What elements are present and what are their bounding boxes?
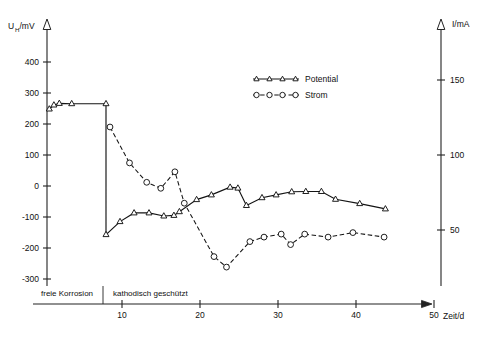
right-tick-labels: 150 100 50: [450, 75, 464, 235]
zone-label-free-corrosion: freie Korrosion: [41, 289, 93, 298]
x-tick-label: 20: [195, 310, 205, 320]
left-tick-label: -300: [22, 274, 39, 284]
right-axis-arrow-icon: [437, 19, 445, 30]
left-axis-title: U H /mV: [8, 21, 35, 33]
legend-label-strom: Strom: [305, 90, 328, 100]
x-tick-label: 30: [273, 310, 283, 320]
legend-strom-marker-icon: [254, 92, 259, 97]
legend-label-potential: Potential: [305, 74, 338, 84]
series-strom: [107, 124, 387, 270]
x-tick-label: 40: [351, 310, 361, 320]
x-tick-label: 50: [429, 310, 439, 320]
left-tick-label: 0: [34, 181, 39, 191]
x-tick-labels: 10 20 30 40 50: [117, 310, 439, 320]
legend-strom-marker-icon: [280, 92, 285, 97]
left-tick-label: 100: [25, 150, 39, 160]
zone-label-cathodic-protection: kathodisch geschützt: [113, 289, 188, 298]
corrosion-potential-current-chart: 400 300 200 100 0 -100 -200 -300 U H /mV…: [0, 0, 481, 343]
legend: Potential Strom: [253, 74, 338, 100]
left-axis-title-main: U: [8, 21, 14, 31]
right-tick-label: 100: [450, 150, 464, 160]
series-potential: [46, 100, 388, 237]
x-axis-arrow-icon: [422, 300, 433, 307]
left-axis-title-tail: /mV: [20, 21, 35, 31]
left-tick-label: 300: [25, 88, 39, 98]
x-axis-title: Zeit/d: [443, 311, 465, 321]
x-tick-label: 10: [117, 310, 127, 320]
legend-strom-marker-icon: [293, 92, 298, 97]
right-y-axis: [437, 19, 445, 286]
strom-line: [110, 127, 384, 267]
legend-potential-marker-icon: [280, 76, 285, 81]
legend-strom-marker-icon: [267, 92, 272, 97]
legend-item-potential[interactable]: Potential: [253, 74, 338, 84]
figure-container: 400 300 200 100 0 -100 -200 -300 U H /mV…: [0, 0, 481, 343]
left-tick-label: -200: [22, 243, 39, 253]
left-y-axis: [43, 19, 51, 286]
right-axis-title: I/mA: [452, 19, 470, 29]
x-axis: [33, 300, 432, 307]
left-tick-label: -100: [22, 212, 39, 222]
potential-markers: [46, 100, 388, 237]
left-tick-label: 200: [25, 119, 39, 129]
legend-potential-marker-icon: [267, 76, 272, 81]
figure-caption: [0, 334, 481, 343]
left-tick-labels: 400 300 200 100 0 -100 -200 -300: [22, 57, 39, 284]
legend-potential-marker-icon: [293, 76, 298, 81]
left-tick-label: 400: [25, 57, 39, 67]
legend-item-strom[interactable]: Strom: [253, 90, 328, 100]
right-tick-label: 150: [450, 75, 464, 85]
strom-markers: [107, 124, 387, 270]
left-axis-arrow-icon: [43, 19, 51, 30]
potential-line: [49, 103, 385, 234]
legend-potential-marker-icon: [254, 76, 259, 81]
right-tick-label: 50: [450, 225, 460, 235]
